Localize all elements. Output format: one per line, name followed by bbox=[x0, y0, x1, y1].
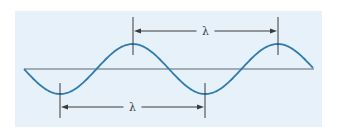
wavelength-diagram: λ λ bbox=[0, 0, 339, 132]
wavelength-label-bottom: λ bbox=[129, 101, 136, 114]
wavelength-label-top: λ bbox=[202, 25, 209, 38]
